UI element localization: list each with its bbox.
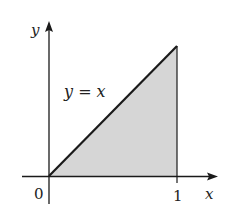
- area-diagram: y y = x 0 1 x: [0, 0, 235, 214]
- x-tick-label-1: 1: [173, 187, 183, 205]
- origin-label: 0: [34, 185, 44, 203]
- y-axis-label: y: [30, 21, 40, 39]
- x-axis-label: x: [205, 185, 214, 203]
- curve-label: y = x: [63, 82, 106, 101]
